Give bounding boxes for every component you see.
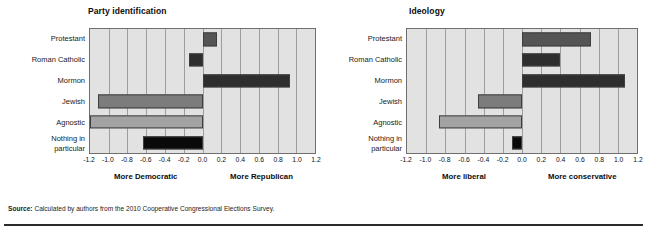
bar-rows-right	[407, 29, 637, 153]
bar	[478, 95, 522, 108]
tick-label: 1.2	[311, 156, 320, 163]
category-label: Roman Catholic	[16, 49, 88, 70]
caption-more-conservative: More conservative	[548, 172, 616, 181]
caption-more-republican: More Republican	[230, 172, 293, 181]
bar-row	[90, 112, 315, 133]
tick-label: 1.0	[292, 156, 301, 163]
tick-label: -0.6	[458, 156, 470, 163]
figure-two-panel-bar-charts: Party identification ProtestantRoman Cat…	[0, 0, 647, 234]
category-label: Mormon	[333, 70, 405, 91]
bar-row	[407, 70, 637, 91]
category-label: Agnostic	[16, 112, 88, 133]
bar-row	[90, 50, 315, 71]
tick-label: 0.6	[575, 156, 584, 163]
bar	[522, 53, 560, 66]
tick-label: 0.0	[517, 156, 526, 163]
bar	[522, 33, 591, 46]
source-text: Calculated by authors from the 2010 Coop…	[33, 205, 275, 212]
tick-label: 1.0	[614, 156, 623, 163]
tick-label: -1.0	[419, 156, 431, 163]
tick-label: 0.4	[556, 156, 565, 163]
bar	[189, 53, 202, 66]
bar-row	[407, 50, 637, 71]
bar-row	[90, 29, 315, 50]
tick-label: 0.2	[217, 156, 226, 163]
category-labels-right: ProtestantRoman CatholicMormonJewishAgno…	[333, 28, 405, 154]
tick-label: 1.2	[633, 156, 642, 163]
category-label: Nothing in particular	[333, 133, 405, 154]
tick-label: -0.4	[477, 156, 489, 163]
panel-party-identification: Party identification ProtestantRoman Cat…	[0, 0, 325, 192]
bar-row	[90, 91, 315, 112]
bottom-rule	[4, 224, 643, 226]
bar	[203, 33, 217, 46]
category-label: Jewish	[333, 91, 405, 112]
direction-captions-left: More Democratic More Republican	[89, 172, 316, 186]
tick-label: 0.0	[198, 156, 207, 163]
bar-row	[407, 112, 637, 133]
tick-label: -1.0	[102, 156, 114, 163]
x-axis-ticks-left: -1.2-1.0-0.8-0.6-0.4-0.20.00.20.40.60.81…	[89, 156, 316, 168]
tick-label: -0.8	[439, 156, 451, 163]
bar-row	[90, 70, 315, 91]
bar	[143, 136, 203, 149]
tick-label: -0.2	[497, 156, 509, 163]
bar-row	[407, 132, 637, 153]
tick-label: -1.2	[400, 156, 412, 163]
tick-label: 0.4	[236, 156, 245, 163]
tick-label: 0.2	[537, 156, 546, 163]
bar	[203, 74, 290, 87]
x-axis-ticks-right: -1.2-1.0-0.8-0.6-0.4-0.20.00.20.40.60.81…	[406, 156, 638, 168]
tick-label: -0.8	[121, 156, 133, 163]
panel-ideology: Ideology ProtestantRoman CatholicMormonJ…	[325, 0, 647, 192]
bar	[439, 115, 522, 128]
tick-label: 0.8	[595, 156, 604, 163]
source-label: Source:	[8, 205, 33, 212]
panel-title-party-identification: Party identification	[88, 6, 167, 16]
panel-title-ideology: Ideology	[409, 6, 445, 16]
direction-captions-right: More liberal More conservative	[406, 172, 638, 186]
panels-container: Party identification ProtestantRoman Cat…	[0, 0, 647, 192]
caption-more-liberal: More liberal	[442, 172, 486, 181]
category-label: Nothing in particular	[16, 133, 88, 154]
tick-label: -0.6	[140, 156, 152, 163]
tick-label: 0.8	[273, 156, 282, 163]
tick-label: -0.4	[159, 156, 171, 163]
caption-more-democratic: More Democratic	[114, 172, 177, 181]
bar-row	[407, 29, 637, 50]
plot-area-ideology	[406, 28, 638, 154]
bar-rows-left	[90, 29, 315, 153]
bar-row	[90, 132, 315, 153]
plot-area-party-identification	[89, 28, 316, 154]
category-label: Protestant	[16, 28, 88, 49]
bar-row	[407, 91, 637, 112]
category-label: Jewish	[16, 91, 88, 112]
category-label: Protestant	[333, 28, 405, 49]
category-label: Agnostic	[333, 112, 405, 133]
category-labels-left: ProtestantRoman CatholicMormonJewishAgno…	[16, 28, 88, 154]
source-note: Source: Calculated by authors from the 2…	[8, 205, 274, 212]
category-label: Roman Catholic	[333, 49, 405, 70]
tick-label: 0.6	[255, 156, 264, 163]
bar	[98, 95, 203, 108]
tick-label: -0.2	[178, 156, 190, 163]
bar	[90, 115, 203, 128]
category-label: Mormon	[16, 70, 88, 91]
bar	[522, 74, 625, 87]
tick-label: -1.2	[83, 156, 95, 163]
bar	[512, 136, 522, 149]
